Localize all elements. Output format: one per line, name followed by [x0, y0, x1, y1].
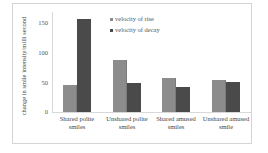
category-label-line: Unshared amused	[200, 115, 252, 123]
bar-decay	[77, 19, 91, 112]
category-label-line: smiles	[150, 123, 202, 131]
legend-label-rise: velocity of rise	[115, 15, 154, 22]
category-label-line: Unshared polite	[101, 115, 153, 123]
y-axis-label: change in smile intensity/milli second	[20, 17, 27, 116]
category-label-shared-polite: Shared polite smiles	[51, 115, 103, 131]
category-label-line: smiles	[101, 123, 153, 131]
y-tick-150: 150	[32, 19, 48, 26]
bar-rise	[63, 85, 77, 112]
bar-decay	[176, 87, 190, 113]
y-tick-100: 100	[32, 49, 48, 56]
category-label-line: smiles	[51, 123, 103, 131]
bar-decay	[127, 83, 141, 112]
category-label-unshared-polite: Unshared polite smiles	[101, 115, 153, 131]
category-label-shared-amused: Shared amused smiles	[150, 115, 202, 131]
category-label-line: Shared amused	[150, 115, 202, 123]
category-label-unshared-amused: Unshared amused smile	[200, 115, 252, 131]
bar-rise	[212, 80, 226, 112]
legend-swatch-decay-icon	[110, 29, 113, 32]
legend-swatch-rise-icon	[110, 18, 113, 21]
bar-rise	[113, 60, 127, 112]
legend-label-decay: velocity of decay	[115, 26, 160, 33]
bar-rise	[162, 78, 176, 113]
y-axis-line	[52, 12, 53, 112]
category-label-line: Shared polite	[51, 115, 103, 123]
legend-item-decay: velocity of decay	[110, 26, 160, 33]
y-tick-0: 0	[32, 108, 48, 115]
bar-decay	[226, 82, 240, 113]
category-label-line: smile	[200, 123, 252, 131]
legend-item-rise: velocity of rise	[110, 15, 154, 22]
y-tick-50: 50	[32, 79, 48, 86]
